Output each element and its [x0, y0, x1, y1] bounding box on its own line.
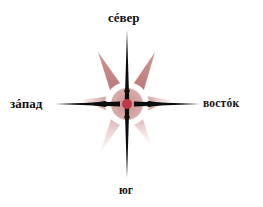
east-label: востóк	[203, 98, 239, 110]
north-label: сéвер	[108, 11, 140, 24]
compass-rose-diagram: сéвер зáпад востóк юг	[0, 0, 263, 207]
center-dot	[122, 99, 132, 109]
south-label: юг	[119, 185, 133, 197]
west-label: зáпад	[10, 97, 42, 110]
